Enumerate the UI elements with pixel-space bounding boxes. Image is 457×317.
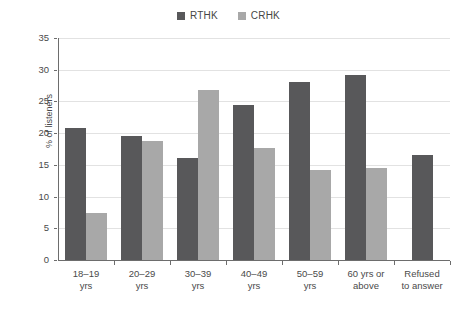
x-tick-mark bbox=[114, 261, 115, 265]
y-tick-mark bbox=[54, 165, 57, 166]
y-tick-label: 15 bbox=[38, 160, 49, 169]
x-category-label: 40–49 yrs bbox=[226, 268, 282, 291]
bar-crhk bbox=[366, 168, 387, 260]
x-tick-mark bbox=[226, 261, 227, 265]
y-tick-label: 35 bbox=[38, 33, 49, 42]
x-category-label: 50–59 yrs bbox=[282, 268, 338, 291]
x-category-label: Refused to answer bbox=[394, 268, 450, 291]
y-tick-label: 5 bbox=[44, 223, 49, 232]
x-tick-mark bbox=[338, 261, 339, 265]
x-axis-line bbox=[58, 260, 450, 261]
legend-entry-crhk: CRHK bbox=[238, 11, 280, 21]
bar-group-container bbox=[58, 38, 450, 260]
chart-legend: RTHK CRHK bbox=[0, 11, 457, 21]
y-tick-label: 30 bbox=[38, 65, 49, 74]
y-tick-mark bbox=[54, 101, 57, 102]
x-category-label: 18–19 yrs bbox=[58, 268, 114, 291]
x-category-label: 30–39 yrs bbox=[170, 268, 226, 291]
legend-label-crhk: CRHK bbox=[251, 11, 280, 21]
y-tick-mark bbox=[54, 260, 57, 261]
bar-crhk bbox=[142, 141, 163, 260]
bar-crhk bbox=[86, 213, 107, 260]
y-tick-mark bbox=[54, 38, 57, 39]
legend-entry-rthk: RTHK bbox=[177, 11, 218, 21]
bar-crhk bbox=[310, 170, 331, 260]
y-tick-mark bbox=[54, 133, 57, 134]
legend-label-rthk: RTHK bbox=[190, 11, 218, 21]
bar-rthk bbox=[65, 128, 86, 260]
y-tick-label: 0 bbox=[44, 255, 49, 264]
y-tick-label: 10 bbox=[38, 192, 49, 201]
x-category-label: 20–29 yrs bbox=[114, 268, 170, 291]
y-tick-mark bbox=[54, 70, 57, 71]
bar-chart-figure: RTHK CRHK % of listeners 05101520253035 … bbox=[0, 0, 457, 317]
legend-swatch-crhk bbox=[238, 12, 246, 20]
x-tick-mark bbox=[170, 261, 171, 265]
x-tick-mark bbox=[450, 261, 451, 265]
bar-rthk bbox=[289, 82, 310, 260]
x-category-label: 60 yrs or above bbox=[338, 268, 394, 291]
bar-rthk bbox=[177, 158, 198, 260]
y-tick-mark bbox=[54, 197, 57, 198]
x-tick-mark bbox=[282, 261, 283, 265]
bar-rthk bbox=[345, 75, 366, 260]
bar-crhk bbox=[254, 148, 275, 260]
x-tick-mark bbox=[394, 261, 395, 265]
y-tick-label: 20 bbox=[38, 128, 49, 137]
bar-rthk bbox=[233, 105, 254, 260]
bar-rthk bbox=[121, 136, 142, 260]
bar-crhk bbox=[198, 90, 219, 260]
legend-swatch-rthk bbox=[177, 12, 185, 20]
y-tick-label: 25 bbox=[38, 96, 49, 105]
y-axis-ticks: 05101520253035 bbox=[30, 38, 54, 261]
y-tick-mark bbox=[54, 228, 57, 229]
bar-rthk bbox=[412, 155, 433, 260]
